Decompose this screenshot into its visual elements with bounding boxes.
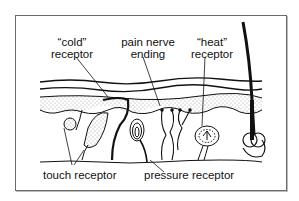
- heat-receptor: [195, 126, 219, 160]
- leader-lines: [64, 57, 205, 172]
- label-cold-line1: “cold”: [48, 36, 96, 48]
- label-touch-receptor: touch receptor: [43, 169, 117, 181]
- pressure-receptor: [130, 119, 147, 162]
- label-pain-line1: pain nerve: [116, 36, 180, 48]
- label-pain-nerve-ending: pain nerve ending: [116, 36, 180, 60]
- label-pain-line2: ending: [116, 48, 180, 60]
- label-heat-line2: receptor: [188, 48, 236, 60]
- label-heat-line1: “heat”: [188, 36, 236, 48]
- touch-receptors: [64, 110, 108, 160]
- label-heat-receptor: “heat” receptor: [188, 36, 236, 60]
- label-pressure-receptor: pressure receptor: [144, 169, 234, 181]
- pain-nerve-endings: [161, 109, 191, 160]
- label-cold-receptor: “cold” receptor: [48, 36, 96, 60]
- label-cold-line2: receptor: [48, 48, 96, 60]
